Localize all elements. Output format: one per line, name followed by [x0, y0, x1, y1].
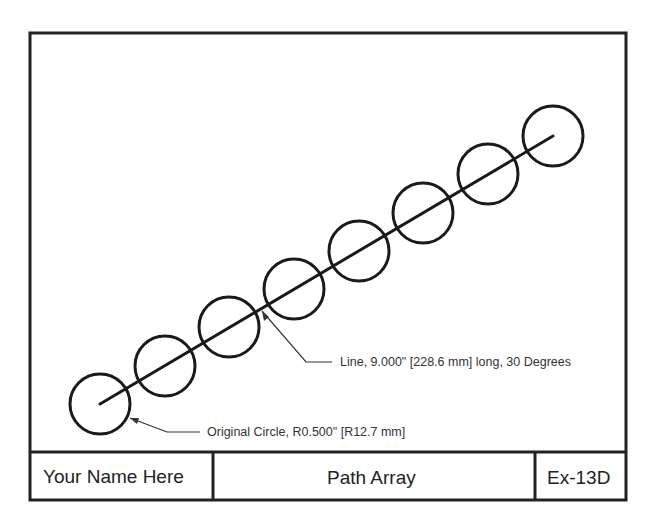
arrowhead-icon [130, 418, 139, 424]
circle-leader [130, 418, 200, 432]
line-annotation: Line, 9.000" [228.6 mm] long, 30 Degrees [340, 356, 571, 369]
title-block-number: Ex-13D [547, 468, 610, 487]
drawing-sheet [0, 0, 648, 526]
circle-annotation: Original Circle, R0.500" [R12.7 mm] [207, 426, 405, 439]
title-block-name: Your Name Here [43, 467, 184, 486]
title-block-title: Path Array [327, 468, 416, 487]
arrowhead-icon [262, 311, 269, 321]
